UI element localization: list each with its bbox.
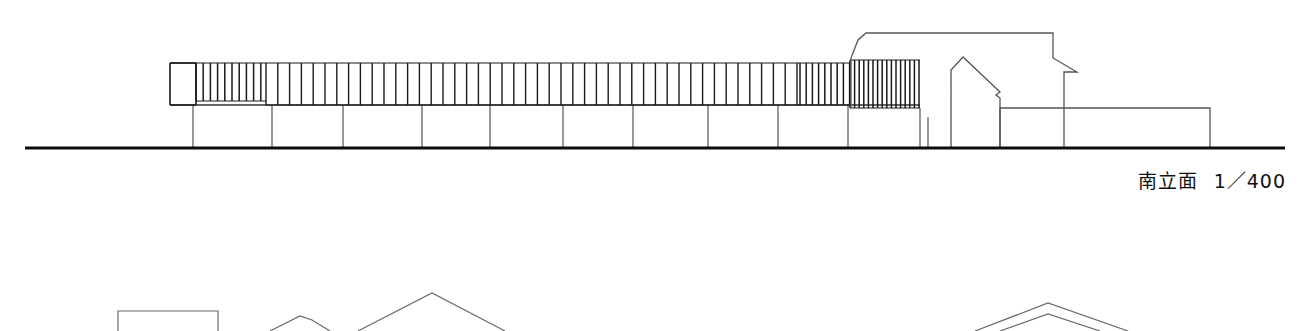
caption-scale: 1／400: [1214, 170, 1286, 192]
fragment-right-gable-outer: [975, 303, 1128, 331]
fragment-small-peak: [270, 316, 330, 331]
south-elevation-drawing: [0, 0, 1300, 331]
gable-house-profile: [951, 57, 1000, 148]
column-lines: [193, 105, 928, 148]
lower-fragment-group: [118, 293, 1128, 331]
louver-fins: [170, 60, 919, 108]
low-right-volume: [1000, 108, 1210, 148]
elevation-group: [25, 33, 1285, 148]
louver-band-outline: [170, 60, 920, 108]
fragment-flat-box: [118, 311, 218, 331]
drawing-caption: 南立面1／400: [1138, 166, 1286, 193]
caption-title: 南立面: [1138, 170, 1198, 192]
tall-outline-volume: [851, 33, 1077, 148]
fragment-large-gable: [358, 293, 505, 331]
drawing-sheet: 南立面1／400: [0, 0, 1300, 331]
